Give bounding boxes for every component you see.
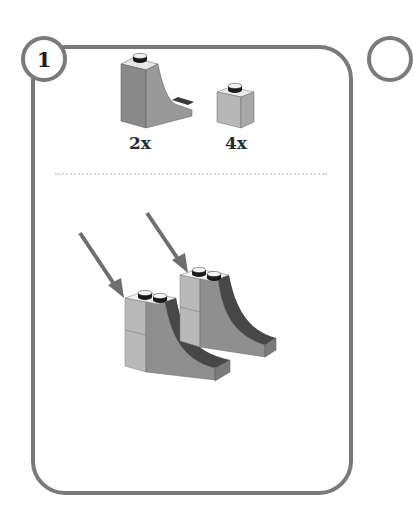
placement-arrow-1 bbox=[80, 233, 124, 298]
assembly-unit-2 bbox=[180, 267, 276, 357]
part-quantity-slope: 2x bbox=[129, 133, 151, 153]
part-quantity-brick: 4x bbox=[225, 133, 247, 153]
dotted-separator bbox=[55, 173, 327, 175]
next-step-badge bbox=[367, 36, 413, 82]
placement-arrow-2 bbox=[147, 213, 188, 273]
one-by-one-brick-icon bbox=[217, 83, 254, 128]
slope-brick-icon bbox=[121, 53, 194, 128]
